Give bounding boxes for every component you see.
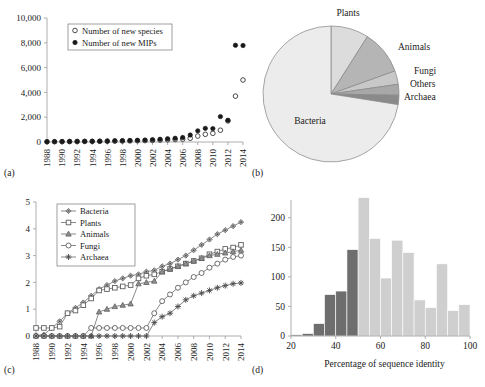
panel-b-container: PlantsAnimalsFungiOthersArchaeaBacteria …	[248, 0, 485, 190]
point	[175, 285, 180, 290]
point	[183, 253, 188, 258]
point	[41, 333, 47, 339]
histogram-bar	[459, 305, 470, 336]
point	[112, 333, 118, 339]
point	[159, 314, 165, 320]
point	[215, 261, 220, 266]
point	[226, 118, 230, 122]
point	[67, 139, 71, 143]
point	[207, 237, 212, 242]
point	[214, 285, 220, 291]
point	[218, 114, 222, 118]
series-2	[45, 43, 245, 144]
svg-text:1994: 1994	[79, 343, 89, 362]
point	[180, 135, 184, 139]
point	[143, 138, 147, 142]
svg-text:Plants: Plants	[80, 218, 102, 228]
point	[203, 126, 207, 130]
point	[128, 273, 133, 278]
svg-text:2014: 2014	[236, 343, 246, 362]
histogram-bar	[369, 238, 380, 336]
point	[120, 325, 125, 330]
point	[104, 325, 109, 330]
point	[136, 333, 142, 339]
point	[241, 78, 246, 83]
point	[199, 242, 204, 247]
point	[175, 257, 180, 262]
point	[45, 139, 49, 143]
point	[191, 248, 196, 253]
svg-text:2000: 2000	[126, 343, 136, 362]
svg-text:2006: 2006	[178, 149, 188, 168]
point	[150, 137, 154, 141]
svg-text:2010: 2010	[208, 149, 218, 168]
point	[90, 139, 94, 143]
svg-text:2000: 2000	[133, 149, 143, 168]
point	[195, 134, 200, 139]
point	[207, 265, 212, 270]
svg-text:2014: 2014	[238, 148, 248, 167]
point	[49, 333, 55, 339]
legend-marker	[66, 220, 71, 225]
point	[88, 333, 94, 339]
point	[105, 139, 109, 143]
pie-label-others: Others	[410, 79, 436, 89]
histogram-bars	[291, 198, 470, 336]
point	[211, 131, 216, 136]
point	[199, 271, 204, 276]
point	[112, 278, 117, 283]
svg-text:0: 0	[37, 137, 42, 147]
svg-text:4,000: 4,000	[21, 88, 42, 98]
point	[128, 283, 133, 288]
point	[81, 303, 86, 308]
point	[128, 301, 133, 306]
point	[231, 224, 236, 229]
point	[136, 325, 141, 330]
panel-a-chart: 02,0004,0006,0008,00010,0001988199019921…	[0, 0, 250, 190]
point	[52, 139, 56, 143]
svg-text:6,000: 6,000	[21, 63, 42, 73]
point	[218, 128, 223, 133]
pie-label-bacteria: Bacteria	[294, 116, 326, 126]
panel-c-container: 0123451988199019921994199619982000200220…	[0, 188, 250, 387]
svg-text:8,000: 8,000	[21, 38, 42, 48]
point	[231, 254, 236, 259]
panel-d-container: 05010015020020406080100Percentage of seq…	[248, 188, 485, 387]
point	[241, 43, 245, 47]
svg-text:2002: 2002	[148, 149, 158, 167]
point	[211, 126, 215, 130]
point	[152, 272, 157, 277]
point	[128, 138, 132, 142]
pie-label-plants: Plants	[336, 8, 360, 18]
point	[183, 280, 188, 285]
svg-text:2012: 2012	[221, 343, 231, 361]
histogram-bar	[448, 311, 459, 336]
histogram-bar	[436, 264, 447, 336]
point	[73, 308, 78, 313]
point	[191, 293, 197, 299]
point	[96, 333, 102, 339]
point	[196, 129, 200, 133]
point	[223, 257, 228, 262]
histogram-bar	[347, 250, 358, 336]
histogram-bar	[392, 240, 403, 336]
point	[158, 137, 162, 141]
point	[120, 276, 125, 281]
histogram-bar	[313, 324, 324, 336]
point	[238, 247, 243, 252]
point	[120, 333, 126, 339]
svg-text:2004: 2004	[163, 149, 173, 168]
svg-text:1: 1	[26, 304, 31, 314]
histogram-bar	[414, 300, 425, 336]
panel-d-label: (d)	[252, 365, 263, 375]
svg-text:Animals: Animals	[80, 229, 110, 239]
svg-text:2008: 2008	[193, 149, 203, 168]
point	[112, 325, 117, 330]
point	[72, 333, 78, 339]
point	[136, 276, 141, 281]
point	[143, 333, 149, 339]
svg-text:1994: 1994	[88, 149, 98, 168]
point	[98, 139, 102, 143]
point	[33, 333, 39, 339]
point	[188, 133, 192, 137]
